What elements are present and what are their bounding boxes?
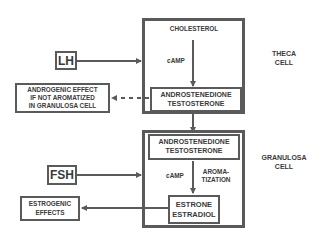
estrone-estradiol-box: ESTRONE ESTRADIOL xyxy=(168,195,220,224)
granulosa-androgen-box: ANDROSTENEDIONE TESTOSTERONE xyxy=(148,134,240,160)
estrogenic-effects-box: ESTROGENIC EFFECTS xyxy=(20,196,80,221)
lh-box: LH xyxy=(55,51,77,70)
cholesterol-label: CHOLESTEROL xyxy=(150,25,238,33)
granulosa-cell-label: GRANULOSA CELL xyxy=(254,154,314,172)
granulosa-camp-label: cAMP xyxy=(163,172,187,180)
fsh-box: FSH xyxy=(47,165,77,185)
theca-androgen-box: ANDROSTENEDIONE TESTOSTERONE xyxy=(150,87,242,112)
aromatization-label: AROMA- TIZATION xyxy=(196,168,236,185)
two-cell-diagram: CHOLESTEROL cAMP ANDROSTENEDIONE TESTOST… xyxy=(0,0,329,237)
theca-camp-label: cAMP xyxy=(164,57,188,65)
androgenic-effect-box: ANDROGENIC EFFECT IF NOT AROMATIZED IN G… xyxy=(15,83,110,113)
theca-cell-label: THECA CELL xyxy=(262,50,306,68)
